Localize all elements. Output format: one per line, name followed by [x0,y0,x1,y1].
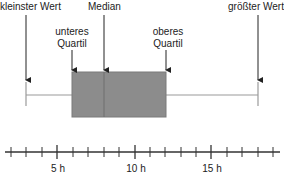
label-q1-line2: Quartil [54,38,90,50]
label-q3: oberes Quartil [151,26,185,50]
label-q3-line1: oberes [151,26,185,38]
interquartile-box [72,72,166,117]
boxplot-diagram [0,0,284,181]
label-q3-line2: Quartil [151,38,185,50]
tick-label-15h: 15 h [202,163,221,175]
label-max: größter Wert [228,1,284,13]
label-median: Median [88,1,121,13]
label-q1-line1: unteres [54,26,90,38]
tick-label-10h: 10 h [126,163,145,175]
label-min: kleinster Wert [0,1,61,13]
tick-label-5h: 5 h [51,163,65,175]
label-q1: unteres Quartil [54,26,90,50]
